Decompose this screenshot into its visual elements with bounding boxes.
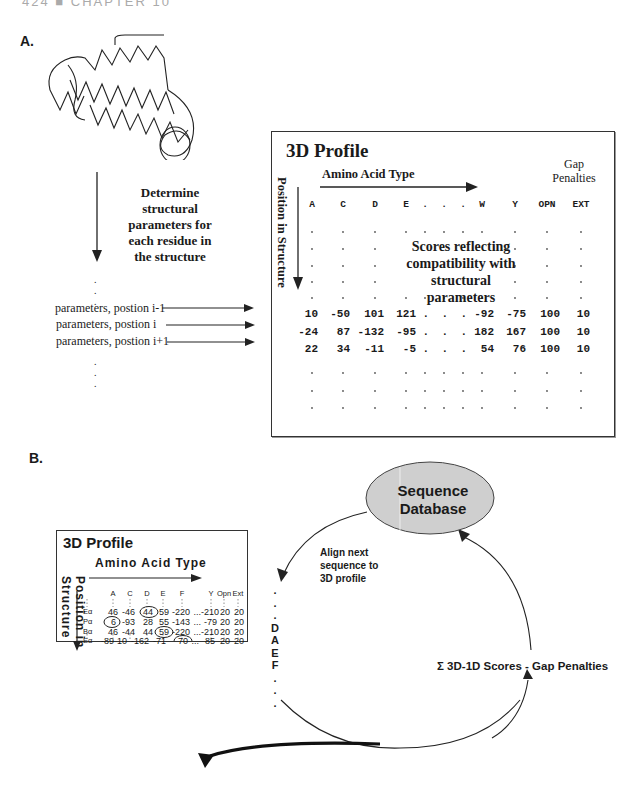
align-line: Align next	[320, 546, 378, 559]
db-label-line: Sequence	[383, 482, 483, 500]
sequence-residue: E	[270, 647, 280, 660]
align-line: 3D profile	[320, 572, 378, 585]
sequence-residue: .	[270, 672, 280, 685]
sequence-residue: A	[270, 634, 280, 647]
sequence-residue: .	[270, 584, 280, 597]
sequence-residue: .	[270, 697, 280, 710]
sequence-residue: .	[270, 684, 280, 697]
sequence-residue: F	[270, 659, 280, 672]
query-sequence: . . . D A E F . . .	[270, 584, 280, 709]
db-label-line: Database	[383, 500, 483, 518]
sequence-residue: D	[270, 622, 280, 635]
score-sum-label: Σ 3D-1D Scores - Gap Penalties	[437, 660, 608, 672]
search-loop-arrows	[0, 0, 631, 796]
align-next-sequence-label: Align next sequence to 3D profile	[320, 546, 378, 585]
arrow-head	[277, 568, 288, 582]
sequence-database-label: Sequence Database	[383, 482, 483, 518]
align-line: sequence to	[320, 559, 378, 572]
sequence-residue: .	[270, 609, 280, 622]
sequence-residue: .	[270, 597, 280, 610]
output-arrow-head	[198, 753, 214, 768]
